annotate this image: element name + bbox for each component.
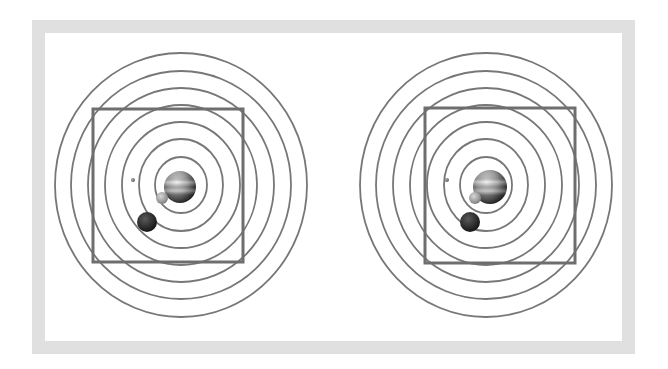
- moon-tiny-icon: [445, 178, 449, 182]
- orbit-diagram: [0, 0, 668, 369]
- moon-grey-icon: [469, 192, 481, 204]
- moon-tiny-icon: [131, 178, 135, 182]
- planet-bands: [164, 171, 196, 203]
- moon-grey-icon: [156, 192, 168, 204]
- panel-left: [55, 53, 307, 317]
- moon-dark-icon: [137, 212, 157, 232]
- panel-right: [360, 53, 612, 317]
- moon-dark-icon: [460, 212, 480, 232]
